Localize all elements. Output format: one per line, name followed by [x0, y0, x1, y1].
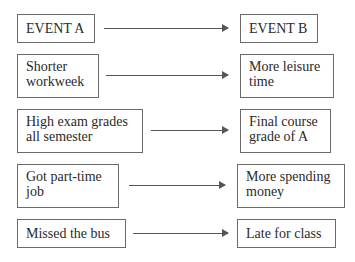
arrow-icon	[133, 233, 228, 234]
cause-box: EVENT A	[17, 14, 95, 43]
cause-box: High exam grades all semester	[17, 109, 143, 153]
arrow-icon	[151, 130, 228, 131]
cause-box: Got part-time job	[17, 164, 119, 208]
effect-box: More spending money	[237, 164, 345, 208]
arrow-icon	[129, 185, 225, 186]
effect-box: Final course grade of A	[240, 109, 331, 153]
effect-box: Late for class	[237, 219, 336, 248]
cause-box: Shorter workweek	[17, 54, 99, 98]
effect-box: EVENT B	[240, 14, 318, 43]
effect-box: More leisure time	[240, 54, 334, 98]
cause-box: Missed the bus	[17, 219, 126, 248]
arrow-icon	[104, 28, 228, 29]
arrow-icon	[106, 75, 228, 76]
